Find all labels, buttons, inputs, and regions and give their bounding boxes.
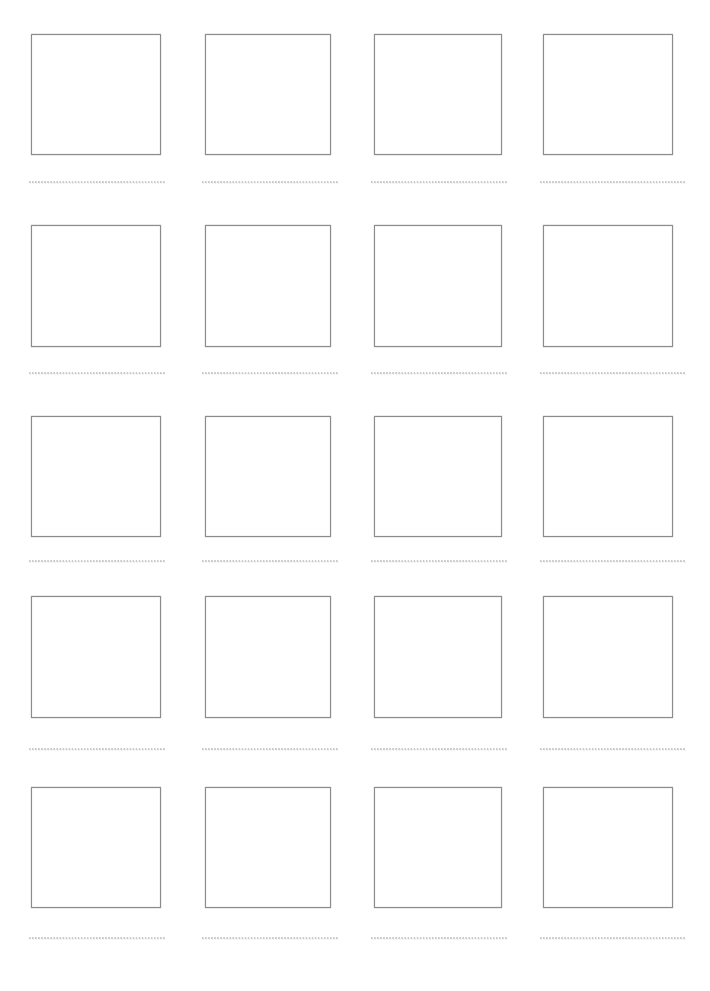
drawing-box[interactable] [31,787,161,908]
dotted-rule-dots-secondary [29,938,165,940]
drawing-box[interactable] [205,787,331,908]
writing-line[interactable] [371,937,508,940]
drawing-box[interactable] [543,787,673,908]
writing-line[interactable] [540,937,686,940]
drawing-box[interactable] [205,416,331,537]
writing-line[interactable] [29,937,165,940]
drawing-box[interactable] [205,225,331,347]
dotted-rule-dots-secondary [202,749,338,751]
drawing-box[interactable] [374,787,502,908]
dotted-rule-dots-secondary [540,938,686,940]
dotted-rule-dots-secondary [371,182,508,184]
drawing-box[interactable] [543,34,673,155]
drawing-box[interactable] [31,225,161,347]
drawing-box[interactable] [374,225,502,347]
worksheet-page [0,0,710,991]
drawing-box[interactable] [543,225,673,347]
dotted-rule-dots-secondary [371,561,508,563]
writing-line[interactable] [202,937,338,940]
writing-line[interactable] [202,560,338,563]
dotted-rule-dots-secondary [540,749,686,751]
dotted-rule-dots-secondary [540,182,686,184]
drawing-box[interactable] [31,416,161,537]
writing-line[interactable] [202,181,338,184]
dotted-rule-dots-secondary [371,938,508,940]
writing-line[interactable] [540,748,686,751]
drawing-box[interactable] [374,416,502,537]
writing-line[interactable] [371,181,508,184]
dotted-rule-dots-secondary [540,561,686,563]
dotted-rule-dots-secondary [371,749,508,751]
drawing-box[interactable] [374,34,502,155]
writing-line[interactable] [540,560,686,563]
drawing-box[interactable] [374,596,502,718]
dotted-rule-dots-secondary [540,373,686,375]
drawing-box[interactable] [543,596,673,718]
writing-line[interactable] [29,372,165,375]
drawing-box[interactable] [543,416,673,537]
writing-line[interactable] [29,181,165,184]
writing-line[interactable] [29,560,165,563]
writing-line[interactable] [540,372,686,375]
drawing-box[interactable] [31,596,161,718]
dotted-rule-dots-secondary [371,373,508,375]
dotted-rule-dots-secondary [202,182,338,184]
writing-line[interactable] [202,748,338,751]
writing-line[interactable] [371,748,508,751]
dotted-rule-dots-secondary [202,373,338,375]
writing-line[interactable] [29,748,165,751]
dotted-rule-dots-secondary [202,938,338,940]
drawing-box[interactable] [205,596,331,718]
writing-line[interactable] [371,372,508,375]
writing-line[interactable] [371,560,508,563]
dotted-rule-dots-secondary [29,182,165,184]
dotted-rule-dots-secondary [29,373,165,375]
dotted-rule-dots-secondary [202,561,338,563]
dotted-rule-dots-secondary [29,749,165,751]
writing-line[interactable] [202,372,338,375]
drawing-box[interactable] [31,34,161,155]
dotted-rule-dots-secondary [29,561,165,563]
drawing-box[interactable] [205,34,331,155]
writing-line[interactable] [540,181,686,184]
